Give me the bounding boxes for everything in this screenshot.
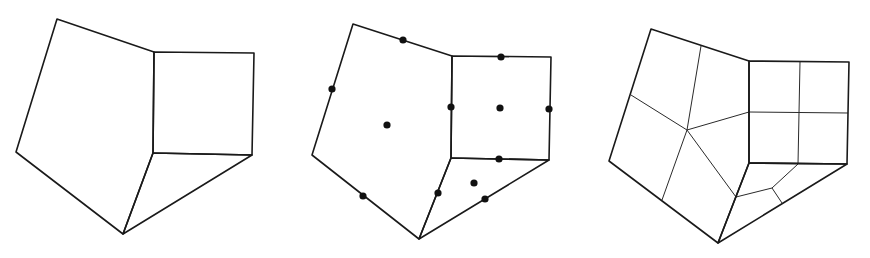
mesh-node (470, 179, 477, 186)
subdivision-edge (687, 112, 749, 130)
mesh-node (359, 192, 366, 199)
subdivision-edge (687, 130, 736, 197)
subdivision-edge (687, 46, 701, 130)
panel-coarse-mesh (16, 19, 254, 234)
panel-mesh-with-midpoints (312, 24, 553, 239)
mesh-face (123, 153, 252, 234)
mesh-face (718, 163, 847, 243)
mesh-node (545, 105, 552, 112)
subdivision-edge (772, 188, 782, 203)
mesh-node (434, 189, 441, 196)
subdivision-edge (631, 95, 687, 130)
mesh-node (399, 36, 406, 43)
mesh-face (153, 52, 254, 155)
mesh-diagram (0, 0, 870, 258)
subdivision-edge (662, 130, 687, 200)
mesh-node (495, 155, 502, 162)
subdivision-edge (736, 188, 772, 197)
panel-subdivided-mesh (609, 29, 849, 243)
subdivision-edge (772, 164, 798, 188)
mesh-node (497, 53, 504, 60)
mesh-node (328, 85, 335, 92)
mesh-face (609, 29, 749, 243)
mesh-node (383, 121, 390, 128)
mesh-node (496, 104, 503, 111)
mesh-node (481, 195, 488, 202)
mesh-face (16, 19, 154, 234)
mesh-node (447, 103, 454, 110)
subdivision-edge (749, 112, 848, 113)
